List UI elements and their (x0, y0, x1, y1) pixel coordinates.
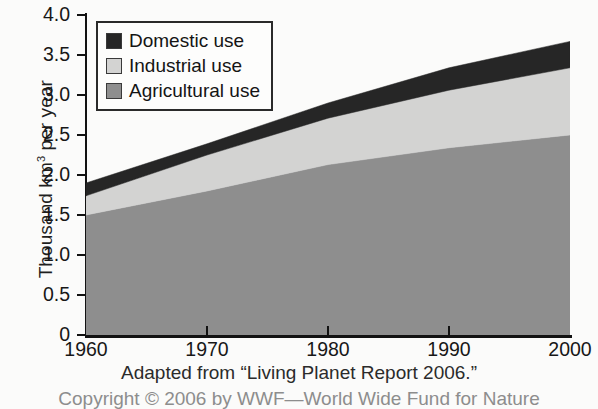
y-axis-tick-label: 1.5 (24, 205, 70, 225)
legend-item: Industrial use (106, 53, 260, 78)
caption-source: Adapted from “Living Planet Report 2006.… (0, 362, 598, 384)
y-axis-tick-label: 1.0 (24, 245, 70, 265)
x-axis-tick-mark (206, 326, 208, 336)
y-axis-tick-mark (77, 294, 86, 296)
x-axis-tick-mark (327, 326, 329, 336)
x-axis-tick-mark (448, 326, 450, 336)
y-axis-tick-label: 2.5 (24, 125, 70, 145)
y-axis-tick-label: 3.0 (24, 85, 70, 105)
legend-item-label: Domestic use (129, 30, 244, 52)
y-axis-tick-mark (77, 134, 86, 136)
caption-copyright: Copyright © 2006 by WWF—World Wide Fund … (0, 388, 598, 409)
chart-figure: Thousand km3 per year 4.03.53.02.52.01.5… (0, 0, 598, 409)
legend-item: Domestic use (106, 28, 260, 53)
y-axis-tick-mark (77, 54, 86, 56)
legend-swatch-icon (106, 58, 122, 74)
y-axis-tick-label: 2.0 (24, 165, 70, 185)
legend-item-label: Agricultural use (129, 80, 260, 102)
x-axis-tick-label: 2000 (530, 338, 598, 361)
y-axis-tick-mark (77, 254, 86, 256)
y-axis-tick-label: 0.5 (24, 285, 70, 305)
y-axis-tick-mark (77, 174, 86, 176)
y-axis-tick-mark (77, 334, 86, 336)
y-axis-tick-mark (77, 14, 86, 16)
x-axis-tick-label: 1990 (409, 338, 489, 361)
x-axis-tick-label: 1970 (167, 338, 247, 361)
legend-swatch-icon (106, 83, 122, 99)
legend-swatch-icon (106, 33, 122, 49)
y-axis-tick-label: 3.5 (24, 45, 70, 65)
x-axis-tick-label: 1960 (46, 338, 126, 361)
chart-legend: Domestic useIndustrial useAgricultural u… (96, 21, 273, 111)
y-axis-tick-mark (77, 214, 86, 216)
y-axis-tick-mark (77, 94, 86, 96)
legend-item: Agricultural use (106, 78, 260, 103)
legend-item-label: Industrial use (129, 55, 242, 77)
y-axis-tick-label: 4.0 (24, 5, 70, 25)
x-axis-tick-label: 1980 (288, 338, 368, 361)
